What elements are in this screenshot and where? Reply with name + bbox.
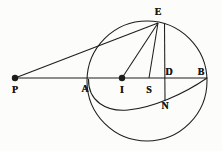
line-P-E [15,23,158,78]
line-E-D-N [165,23,166,101]
point-label-P: P [12,85,18,95]
point-label-E: E [155,7,162,17]
geometry-canvas [0,0,222,151]
point-label-I: I [120,85,124,95]
line-E-S [149,23,158,78]
point-marker-I [119,75,125,81]
point-label-D: D [165,67,172,77]
line-E-I [122,23,158,78]
point-marker-P [12,75,18,81]
point-label-B: B [198,67,205,77]
point-label-S: S [146,85,152,95]
point-label-A: A [81,84,88,94]
geometry-figure: P A I S D B N E [0,0,222,151]
point-label-N: N [161,101,168,111]
